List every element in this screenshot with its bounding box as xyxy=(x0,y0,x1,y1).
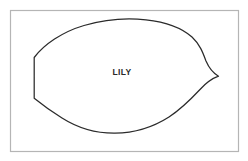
shape-name-label: LILY xyxy=(112,67,131,77)
figure-root: LILY xyxy=(0,0,248,161)
leaf-diagram-svg: LILY xyxy=(0,0,248,161)
